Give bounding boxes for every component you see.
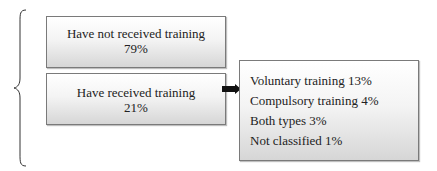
not-received-label: Have not received training: [47, 26, 225, 41]
not-received-percent: 79%: [47, 41, 225, 56]
training-breakdown-box: Voluntary training 13% Compulsory traini…: [239, 60, 419, 161]
received-training-box: Have received training 21%: [46, 73, 226, 125]
breakdown-compulsory: Compulsory training 4%: [250, 91, 418, 111]
breakdown-both: Both types 3%: [250, 111, 418, 131]
breakdown-voluntary: Voluntary training 13%: [250, 71, 418, 91]
breakdown-not-classified: Not classified 1%: [250, 131, 418, 151]
curly-brace-icon: [12, 8, 28, 168]
received-label: Have received training: [47, 85, 225, 100]
received-percent: 21%: [47, 100, 225, 115]
not-received-training-box: Have not received training 79%: [46, 16, 226, 68]
